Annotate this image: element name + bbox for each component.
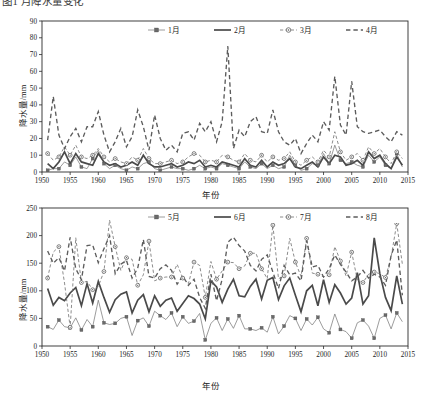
legend-label: 8月 (366, 213, 378, 222)
series-marker (136, 319, 139, 322)
series-marker (249, 327, 252, 330)
x-tick-label: 2010 (373, 177, 388, 185)
series-marker-dot (115, 246, 116, 247)
x-tick-label: 1985 (232, 177, 247, 185)
legend-swatch-circle-dot (288, 29, 290, 31)
series-marker (80, 328, 83, 331)
series-marker (249, 165, 252, 168)
series-marker (193, 320, 196, 323)
series-marker (136, 167, 139, 170)
legend-label: 3月 (300, 26, 312, 35)
series-marker-dot (216, 279, 217, 280)
series-marker (80, 165, 83, 168)
series-marker (125, 169, 128, 172)
series-marker (328, 162, 331, 165)
cropped-caption-text: 图1 月降水量变化 (2, 0, 83, 8)
y-tick-label: 0 (33, 343, 37, 351)
x-tick-label: 1975 (176, 177, 191, 185)
series-marker-dot (396, 151, 397, 152)
series-marker-dot (137, 160, 138, 161)
x-tick-label: 1990 (260, 351, 275, 359)
series-marker-dot (81, 156, 82, 157)
series-marker (114, 322, 117, 325)
y-tick-label: 0 (33, 169, 37, 177)
series-marker-dot (70, 327, 71, 328)
series-marker (69, 164, 72, 167)
x-tick-label: 1950 (35, 177, 50, 185)
series-marker (294, 164, 297, 167)
series-marker-dot (126, 257, 127, 258)
plot-svg-2: 0501001502002501950195519601965197019751… (0, 198, 421, 373)
series-marker-dot (340, 151, 341, 152)
series-marker (226, 164, 229, 167)
series-marker (46, 325, 49, 328)
x-tick-label: 2015 (401, 351, 416, 359)
legend-label: 2月 (234, 26, 246, 35)
series-marker (181, 167, 184, 170)
series-marker (215, 316, 218, 319)
series-marker-dot (374, 271, 375, 272)
legend-swatch-square-marker (155, 28, 159, 32)
y-tick-label: 30 (30, 118, 38, 126)
series-marker (361, 319, 364, 322)
series-marker (350, 337, 353, 340)
series-marker-dot (148, 241, 149, 242)
series-marker (170, 165, 173, 168)
series-marker (238, 167, 241, 170)
series-marker (170, 311, 173, 314)
legend-swatch-square-marker (155, 215, 159, 219)
x-tick-label: 2015 (401, 177, 416, 185)
series-marker (238, 314, 241, 317)
series-marker (147, 160, 150, 163)
series-marker-dot (182, 161, 183, 162)
x-tick-label: 1995 (288, 177, 303, 185)
series-marker-dot (171, 160, 172, 161)
series-line-3月 (48, 132, 403, 166)
series-marker-dot (238, 161, 239, 162)
series-marker-dot (238, 268, 239, 269)
series-marker-dot (374, 153, 375, 154)
x-tick-label: 2005 (345, 177, 360, 185)
series-marker-dot (193, 153, 194, 154)
x-tick-label: 1995 (288, 351, 303, 359)
series-marker (204, 167, 207, 170)
x-tick-label: 1950 (35, 351, 50, 359)
series-marker-dot (362, 282, 363, 283)
series-marker (271, 315, 274, 318)
series-marker (339, 159, 342, 162)
series-marker-dot (160, 278, 161, 279)
series-marker-dot (70, 155, 71, 156)
series-marker (283, 165, 286, 168)
series-marker (159, 314, 162, 317)
series-marker (102, 162, 105, 165)
x-tick-label: 1965 (119, 177, 134, 185)
x-axis-label-2: 年份 (0, 379, 421, 391)
series-marker (316, 316, 319, 319)
series-marker-dot (92, 155, 93, 156)
x-tick-label: 1965 (119, 351, 134, 359)
series-marker (305, 167, 308, 170)
x-tick-label: 2000 (316, 351, 331, 359)
plot-wrapper-2: 降水量/mm 年份 050100150200250195019551960196… (0, 198, 421, 401)
x-tick-label: 2000 (316, 177, 331, 185)
series-marker-dot (92, 289, 93, 290)
series-marker-dot (47, 153, 48, 154)
series-marker (204, 338, 207, 341)
series-marker-dot (126, 163, 127, 164)
legend-label: 1月 (168, 26, 180, 35)
x-tick-label: 1980 (204, 351, 219, 359)
series-marker-dot (58, 246, 59, 247)
series-marker (271, 164, 274, 167)
series-marker-dot (182, 278, 183, 279)
series-marker-dot (205, 161, 206, 162)
series-marker-dot (250, 160, 251, 161)
series-marker (181, 315, 184, 318)
x-tick-label: 1970 (147, 351, 162, 359)
series-marker-dot (295, 161, 296, 162)
series-marker-dot (329, 156, 330, 157)
series-marker (350, 160, 353, 163)
x-tick-label: 1990 (260, 177, 275, 185)
chart-precip-may-aug: 降水量/mm 年份 050100150200250195019551960196… (0, 198, 421, 401)
y-tick-label: 70 (30, 51, 38, 59)
y-tick-label: 100 (26, 287, 37, 295)
